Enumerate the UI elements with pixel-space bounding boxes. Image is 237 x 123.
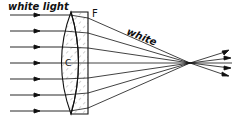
achromatic-lens-diagram: white light F C white — [0, 0, 237, 123]
diverging-rays — [190, 50, 232, 76]
label-flint: F — [92, 8, 98, 19]
label-white-light: white light — [8, 1, 70, 12]
label-white: white — [125, 26, 158, 48]
label-crown: C — [65, 58, 71, 68]
diagram-svg: white light F C white — [0, 0, 237, 123]
